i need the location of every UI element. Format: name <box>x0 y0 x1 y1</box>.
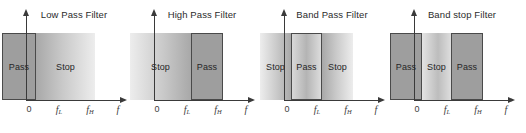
band-label: Pass <box>197 62 217 72</box>
panel-band-pass-filter: StopStopPassBand Pass Filter0fLfHf <box>258 0 386 133</box>
band-pass-2: Pass <box>191 33 223 100</box>
frequency-axis-arrow-icon <box>248 97 255 103</box>
band-label: Stop <box>56 62 75 72</box>
x-tick-f-low: fL <box>437 104 457 115</box>
x-tick-f-var: f <box>496 104 516 115</box>
gain-axis-line <box>284 14 285 101</box>
band-pass-2: Pass <box>390 33 422 100</box>
x-tick-zero: 0 <box>19 104 39 114</box>
x-tick-f-high: fH <box>80 104 100 115</box>
gain-axis-line <box>414 14 415 101</box>
panel-title: Band Pass Filter <box>280 9 384 20</box>
band-label: Pass <box>9 62 29 72</box>
band-stop-1: Stop <box>421 33 452 100</box>
filter-response-figure: PassStopLow Pass Filter0fLfHfStopPassHig… <box>0 0 526 133</box>
x-tick-zero: 0 <box>407 104 427 114</box>
frequency-axis-line <box>154 100 249 101</box>
x-tick-subscript: H <box>347 108 352 115</box>
band-label: Stop <box>266 62 285 72</box>
x-tick-subscript: L <box>447 108 451 115</box>
band-stop-2: Stop <box>36 33 95 100</box>
x-tick-value: 0 <box>284 104 289 114</box>
x-axis-tick-labels: 0fLfHf <box>154 104 254 120</box>
frequency-axis-arrow-icon <box>120 97 127 103</box>
frequency-axis-line <box>414 100 509 101</box>
x-tick-value: 0 <box>414 104 419 114</box>
x-axis-tick-labels: 0fLfHf <box>26 104 126 120</box>
band-label: Stop <box>151 62 170 72</box>
band-label: Pass <box>396 62 416 72</box>
x-tick-f-var: f <box>108 104 128 115</box>
gain-axis-line <box>26 14 27 101</box>
panel-band-stop-filter: StopPassPassBand stop Filter0fLfHf <box>388 0 516 133</box>
frequency-axis-arrow-icon <box>508 97 515 103</box>
x-tick-f-high: fH <box>468 104 488 115</box>
band-label: Stop <box>328 62 347 72</box>
gain-axis-line <box>154 14 155 101</box>
frequency-axis-arrow-icon <box>378 97 385 103</box>
x-tick-f-low: fL <box>307 104 327 115</box>
frequency-axis-line <box>26 100 121 101</box>
x-tick-value: f <box>505 104 508 115</box>
x-tick-value: 0 <box>26 104 31 114</box>
x-tick-subscript: H <box>217 108 222 115</box>
x-tick-f-high: fH <box>338 104 358 115</box>
x-tick-value: f <box>245 104 248 115</box>
x-tick-f-high: fH <box>208 104 228 115</box>
x-tick-subscript: H <box>89 108 94 115</box>
band-pass-3: Pass <box>291 33 322 100</box>
band-label: Pass <box>296 62 316 72</box>
band-stop-1: Stop <box>260 33 291 100</box>
x-tick-value: f <box>375 104 378 115</box>
x-tick-subscript: L <box>317 108 321 115</box>
panel-title: Band stop Filter <box>410 9 514 20</box>
x-axis-tick-labels: 0fLfHf <box>414 104 514 120</box>
x-tick-f-var: f <box>236 104 256 115</box>
panel-high-pass-filter: StopPassHigh Pass Filter0fLfHf <box>128 0 256 133</box>
x-tick-f-var: f <box>366 104 386 115</box>
panel-title: Low Pass Filter <box>22 9 126 20</box>
frequency-axis-line <box>284 100 379 101</box>
band-label: Pass <box>457 62 477 72</box>
x-tick-subscript: H <box>477 108 482 115</box>
panel-low-pass-filter: PassStopLow Pass Filter0fLfHf <box>0 0 128 133</box>
x-tick-value: f <box>117 104 120 115</box>
x-tick-zero: 0 <box>147 104 167 114</box>
x-tick-zero: 0 <box>277 104 297 114</box>
band-pass-3: Pass <box>451 33 483 100</box>
band-stop-1: Stop <box>130 33 191 100</box>
x-tick-subscript: L <box>187 108 191 115</box>
x-tick-value: 0 <box>154 104 159 114</box>
x-tick-f-low: fL <box>177 104 197 115</box>
band-label: Stop <box>427 62 446 72</box>
x-tick-f-low: fL <box>49 104 69 115</box>
band-pass-1: Pass <box>2 33 36 100</box>
x-axis-tick-labels: 0fLfHf <box>284 104 384 120</box>
band-stop-2: Stop <box>322 33 353 100</box>
x-tick-subscript: L <box>59 108 63 115</box>
panel-title: High Pass Filter <box>150 9 254 20</box>
